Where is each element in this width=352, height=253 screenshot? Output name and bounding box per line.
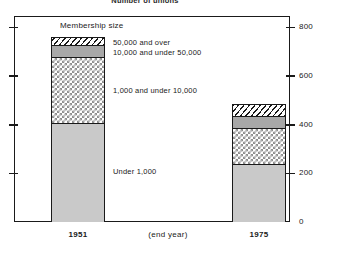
y-tick-label-0: 0	[299, 218, 304, 226]
x-axis-note: (end year)	[128, 230, 208, 239]
y-tick-left-800	[9, 27, 18, 29]
y-tick-right-800	[286, 27, 295, 29]
y-tick-left-600	[9, 75, 18, 77]
bar-1975-segment-10000-under-50000	[233, 116, 285, 128]
y-tick-right-600	[286, 75, 295, 77]
bar-1951-segment-under-1000	[52, 123, 104, 222]
bar-1975-segment-1000-under-10000	[233, 128, 285, 164]
y-tick-left-400	[9, 124, 18, 126]
legend-item-label-10000-under-50000: 10,000 and under 50,000	[113, 48, 201, 57]
x-axis-label-1975: 1975	[234, 230, 284, 239]
chart-container: Number of unions 800 600 400 200 0 Membe…	[0, 0, 352, 253]
legend-item-label-1000-under-10000: 1,000 and under 10,000	[113, 86, 197, 95]
y-tick-label-600: 600	[299, 72, 313, 80]
y-tick-label-400: 400	[299, 121, 313, 129]
bar-1951-segment-10000-under-50000	[52, 45, 104, 57]
legend-heading: Membership size	[60, 21, 123, 30]
bar-1975-segment-50000-and-over	[233, 104, 285, 116]
y-tick-label-200: 200	[299, 169, 313, 177]
bar-1951-segment-1000-under-10000	[52, 57, 104, 123]
y-tick-left-200	[9, 173, 18, 175]
x-axis-label-1951: 1951	[53, 230, 103, 239]
legend-item-label-under-1000: Under 1,000	[113, 167, 156, 176]
legend-item-label-50000-and-over: 50,000 and over	[113, 38, 170, 47]
bar-1975-segment-under-1000	[233, 164, 285, 222]
bar-1975	[232, 104, 286, 222]
y-tick-right-400	[286, 124, 295, 126]
y-tick-label-800: 800	[299, 23, 313, 31]
chart-title: Number of unions	[0, 0, 290, 4]
bar-1951-segment-50000-and-over	[52, 37, 104, 45]
y-tick-right-200	[286, 173, 295, 175]
bar-1951	[51, 37, 105, 222]
